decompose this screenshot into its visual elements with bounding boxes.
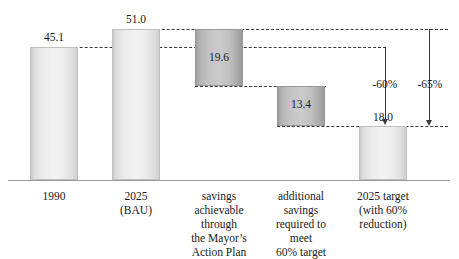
category-label-additional-line3: required to <box>259 217 343 231</box>
plot-area: 45.1 51.0 19.6 13.4 18.0 -60% -65% 1990 … <box>0 0 459 259</box>
axis-baseline <box>8 180 450 181</box>
value-label-savings-action-plan: 19.6 <box>195 51 243 64</box>
category-label-2025-target: 2025 target (with 60% reduction) <box>339 189 427 231</box>
arrow-shaft-65 <box>429 29 430 120</box>
category-label-target-line1: 2025 target <box>339 189 427 203</box>
category-label-2025-bau-line2: (BAU) <box>96 203 176 217</box>
bar-1990 <box>30 47 78 180</box>
value-label-additional-savings: 13.4 <box>277 98 325 111</box>
category-label-savings-line3: through <box>177 217 261 231</box>
waterfall-chart: 45.1 51.0 19.6 13.4 18.0 -60% -65% 1990 … <box>0 0 459 259</box>
category-label-additional-line1: additional <box>259 189 343 203</box>
value-label-1990: 45.1 <box>30 31 78 44</box>
category-label-2025-bau-line1: 2025 <box>96 189 176 203</box>
category-label-1990-line1: 1990 <box>14 189 94 203</box>
category-label-additional-line2: savings <box>259 203 343 217</box>
category-label-target-line3: reduction) <box>339 217 427 231</box>
category-label-savings-line2: achievable <box>177 203 261 217</box>
category-label-target-line2: (with 60% <box>339 203 427 217</box>
category-label-2025-bau: 2025 (BAU) <box>96 189 176 217</box>
category-label-savings-line5: Action Plan <box>177 245 261 259</box>
category-label-additional-savings: additional savings required to meet 60% … <box>259 189 343 259</box>
arrow-head-65 <box>426 120 432 126</box>
category-label-additional-line4: meet <box>259 231 343 245</box>
reference-line-51 <box>112 29 448 30</box>
category-label-savings-line1: savings <box>177 189 261 203</box>
category-label-savings-action-plan: savings achievable through the Mayor’s A… <box>177 189 261 259</box>
category-label-additional-line5: 60% target <box>259 245 343 259</box>
bar-2025-bau <box>112 29 160 180</box>
arrow-head-60 <box>382 119 388 125</box>
bar-2025-target <box>359 126 407 180</box>
annotation-label-65: -65% <box>404 78 456 91</box>
category-label-savings-line4: the Mayor’s <box>177 231 261 245</box>
value-label-2025-bau: 51.0 <box>112 13 160 26</box>
category-label-1990: 1990 <box>14 189 94 203</box>
